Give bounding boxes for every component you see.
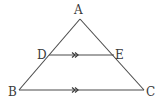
triangle-diagram: A D E B C xyxy=(0,0,163,104)
label-d: D xyxy=(37,48,47,62)
label-e: E xyxy=(115,48,124,62)
label-a: A xyxy=(73,3,83,17)
label-b: B xyxy=(8,85,17,99)
label-c: C xyxy=(146,85,155,99)
